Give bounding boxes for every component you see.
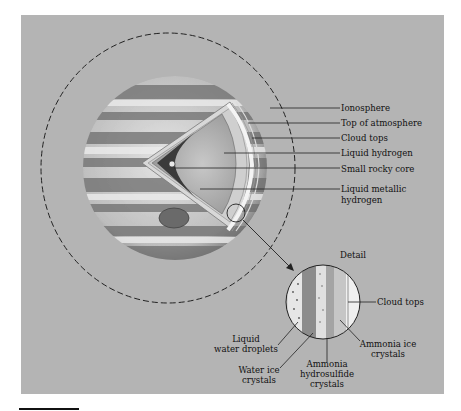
label-liquid-hydrogen: Liquid hydrogen xyxy=(341,148,413,158)
figure: Ionosphere Top of atmosphere Cloud tops … xyxy=(0,0,461,411)
label-cloud-tops: Cloud tops xyxy=(341,133,388,143)
label-water-ice-crystals-line2: crystals xyxy=(236,375,282,385)
label-ammonia-ice-crystals: Ammonia ice crystals xyxy=(358,339,418,359)
label-ammonia-ice-line2: crystals xyxy=(358,349,418,359)
label-ammonia-hydrosulfide-crystals: Ammonia hydrosulfide crystals xyxy=(296,359,358,389)
footnote-rule xyxy=(19,408,79,410)
detail-magnified-view xyxy=(284,263,364,343)
label-small-rocky-core: Small rocky core xyxy=(341,164,414,174)
label-liquid-metallic-hydrogen-line2: hydrogen xyxy=(341,195,382,205)
label-detail-title: Detail xyxy=(340,250,366,260)
label-liquid-water-droplets: Liquid water droplets xyxy=(214,334,278,354)
rocky-core xyxy=(169,161,175,167)
great-red-spot xyxy=(159,208,189,228)
label-ammonia-hydrosulfide-line3: crystals xyxy=(296,379,358,389)
label-liquid-metallic-hydrogen-line1: Liquid metallic xyxy=(341,184,406,194)
label-water-ice-crystals: Water ice crystals xyxy=(236,365,282,385)
label-liquid-water-droplets-line2: water droplets xyxy=(214,344,278,354)
label-ammonia-hydrosulfide-line1: Ammonia xyxy=(296,359,358,369)
label-ammonia-ice-line1: Ammonia ice xyxy=(358,339,418,349)
label-detail-cloud-tops: Cloud tops xyxy=(377,297,424,307)
label-ionosphere: Ionosphere xyxy=(341,103,390,113)
label-ammonia-hydrosulfide-line2: hydrosulfide xyxy=(296,369,358,379)
label-water-ice-crystals-line1: Water ice xyxy=(236,365,282,375)
label-top-of-atmosphere: Top of atmosphere xyxy=(341,118,422,128)
label-liquid-water-droplets-line1: Liquid xyxy=(214,334,278,344)
